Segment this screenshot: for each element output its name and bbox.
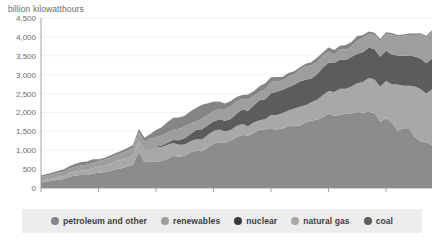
legend-label: petroleum and other [63,216,147,226]
legend-label: nuclear [246,216,277,226]
y-axis-tick-label: 0 [32,184,37,193]
y-axis-tick-label: 1,000 [16,146,37,155]
plot-area: 4,5004,0003,5003,0002,5002,0001,5001,000… [0,14,443,196]
legend-label: coal [376,216,393,226]
y-axis-tick-label: 3,500 [16,52,37,61]
legend-item-petroleum-and-other[interactable]: petroleum and other [51,216,147,226]
stacked-area-chart: 4,5004,0003,5003,0002,5002,0001,5001,000… [0,14,443,196]
legend-item-coal[interactable]: coal [364,216,393,226]
y-axis-tick-label: 500 [23,165,37,174]
x-axis-tick-label: 1980 [214,194,232,196]
legend-item-nuclear[interactable]: nuclear [234,216,277,226]
x-axis-tick-label: 1960 [99,194,117,196]
x-axis-tick-label: 1990 [271,194,289,196]
y-axis-tick-label: 4,500 [16,14,37,23]
x-axis-tick-label: 1950 [41,194,59,196]
legend-item-renewables[interactable]: renewables [161,216,220,226]
x-axis-tick-label: 2010 [386,194,404,196]
circle-marker-icon [161,217,169,225]
chart-figure: billion kilowatthours 4,5004,0003,5003,0… [0,0,443,241]
y-axis-tick-label: 2,500 [16,90,37,99]
chart-legend: petroleum and otherrenewablesnuclearnatu… [22,209,422,233]
circle-marker-icon [51,217,59,225]
y-axis-tick-label: 2,000 [16,108,37,117]
y-axis-tick-label: 4,000 [16,33,37,42]
legend-label: renewables [173,216,220,226]
circle-marker-icon [364,217,372,225]
x-axis-tick-label: 2000 [329,194,347,196]
y-axis-tick-label: 1,500 [16,127,37,136]
circle-marker-icon [291,217,299,225]
circle-marker-icon [234,217,242,225]
legend-item-natural-gas[interactable]: natural gas [291,216,349,226]
y-axis-tick-label: 3,000 [16,71,37,80]
x-axis-tick-label: 1970 [156,194,174,196]
legend-label: natural gas [303,216,349,226]
y-axis-title: billion kilowatthours [8,4,84,14]
